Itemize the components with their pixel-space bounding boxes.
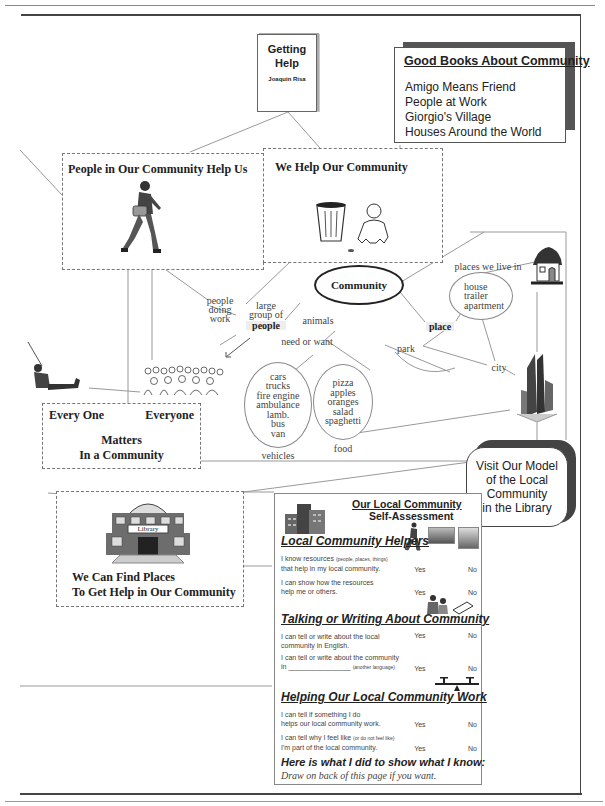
child-on-swing-icon <box>24 340 84 390</box>
good-books-item: Houses Around the World <box>405 125 565 140</box>
section-heading-talking: Talking or Writing About Community <box>281 612 489 626</box>
label-park: park <box>394 344 418 353</box>
panel-people-help-us: People in Our Community Help Us <box>62 153 264 270</box>
vehicles-oval: cars trucks fire engine ambulance lamb. … <box>244 362 312 448</box>
book-cover-getting-help: Getting Help Joaquin Risa <box>257 34 317 112</box>
house-icon <box>529 245 565 289</box>
yes-option[interactable]: Yes <box>414 745 462 752</box>
no-option[interactable]: No <box>462 665 477 672</box>
label-people-doing-work: people doing work <box>205 296 235 323</box>
helper-woman-photo <box>458 527 479 549</box>
child-picking-up-litter-icon <box>354 203 394 249</box>
label-city: city <box>489 363 509 372</box>
sa-row: I can tell or write about the communityi… <box>281 653 477 672</box>
self-assessment-form: Our Local Community Self-Assessment Loca… <box>274 493 482 785</box>
form-title-2: Self-Assessment <box>369 510 454 522</box>
panel-title: We Help Our Community <box>275 160 442 175</box>
label-need-or-want: need or want <box>276 337 338 346</box>
good-books-item: Amigo Means Friend <box>405 80 565 95</box>
footer-note: Draw on back of this page if you want. <box>281 770 436 781</box>
sa-row: I know resources (people, places, things… <box>281 554 477 573</box>
panel-everyone-matters: Every One Everyone Matters In a Communit… <box>42 403 201 469</box>
crowd-icon <box>142 365 226 399</box>
trash-can-icon <box>314 201 348 245</box>
label-vehicles: vehicles <box>255 451 301 460</box>
section-heading-helping: Helping Our Local Community Work <box>281 690 487 704</box>
skyscraper-icon <box>513 352 561 422</box>
panel-library: Library We Can Find Places To Get Help i… <box>56 491 244 607</box>
form-title-1: Our Local Community <box>352 498 462 510</box>
community-label: Community <box>331 279 387 291</box>
yes-option[interactable]: Yes <box>414 665 462 672</box>
good-books-title: Good Books About Community <box>404 54 565 68</box>
food-oval: pizza apples oranges salad spaghetti <box>313 364 373 440</box>
library-line1: We Can Find Places <box>72 570 175 585</box>
every-one-label: Every One <box>49 408 104 423</box>
label-people: people <box>246 321 286 330</box>
label-places-we-live-in: places we live in <box>453 262 523 271</box>
yes-option[interactable]: Yes <box>414 721 462 728</box>
matters-line1: Matters <box>43 433 200 448</box>
balance-scale-icon <box>435 677 479 691</box>
matters-line2: In a Community <box>43 448 200 463</box>
book-title-line1: Getting <box>258 43 316 55</box>
yes-option[interactable]: Yes <box>414 566 462 573</box>
good-books-item: Giorgio's Village <box>405 110 565 125</box>
yes-option[interactable]: Yes <box>414 632 462 639</box>
label-large-group-of: large group of <box>246 301 286 319</box>
sa-row: I can tell why I feel like (or do not fe… <box>281 733 477 752</box>
label-animals: animals <box>296 316 340 325</box>
mail-carrier-icon <box>113 178 173 258</box>
town-buildings-icon <box>283 500 329 536</box>
homes-oval: house trailer apartment <box>449 272 513 320</box>
everyone-label: Everyone <box>145 408 194 423</box>
footer-title: Here is what I did to show what I know: <box>281 756 485 768</box>
community-center-node: Community <box>314 265 404 305</box>
sa-row: I can tell if something I dohelps our lo… <box>281 710 477 728</box>
good-books-box: Good Books About Community Amigo Means F… <box>394 47 566 143</box>
litter <box>348 249 354 252</box>
book-author: Joaquin Risa <box>258 76 316 82</box>
no-option[interactable]: No <box>462 566 477 573</box>
sa-row: I can tell or write about the localcommu… <box>281 632 477 650</box>
no-option[interactable]: No <box>462 721 477 728</box>
fire-truck-photo <box>428 527 455 544</box>
good-books-item: People at Work <box>405 95 565 110</box>
library-line2: To Get Help in Our Community <box>72 585 236 600</box>
no-option[interactable]: No <box>462 745 477 752</box>
no-option[interactable]: No <box>462 632 477 639</box>
label-food: food <box>328 444 358 453</box>
book-title-line2: Help <box>258 57 316 69</box>
section-heading-helpers: Local Community Helpers <box>281 534 429 548</box>
panel-we-help: We Help Our Community <box>263 148 443 263</box>
panel-title: People in Our Community Help Us <box>68 162 263 177</box>
library-sign: Library <box>129 525 167 533</box>
label-place: place <box>426 322 454 331</box>
